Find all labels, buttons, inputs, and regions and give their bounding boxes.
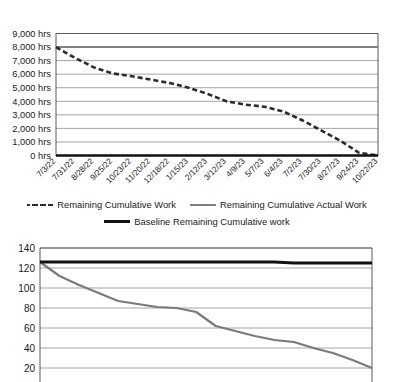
chart-page: 0 hrs1,000 hrs2,000 hrs3,000 hrs4,000 hr… xyxy=(0,0,394,382)
chart-legend: Remaining Cumulative Work Remaining Cumu… xyxy=(0,196,394,240)
chart1-svg: 0 hrs1,000 hrs2,000 hrs3,000 hrs4,000 hr… xyxy=(0,0,394,196)
y-tick-label: 3,000 hrs xyxy=(12,110,51,120)
gray-line-icon xyxy=(190,201,216,209)
black-line-icon xyxy=(104,218,130,226)
y-tick-label: 40 xyxy=(24,343,36,354)
chart2-remaining-actual-work-series xyxy=(40,262,372,368)
y-tick-label: 100 xyxy=(18,283,35,294)
y-tick-label: 60 xyxy=(24,323,36,334)
legend-label: Remaining Cumulative Work xyxy=(57,200,176,209)
dashed-line-icon xyxy=(27,201,53,209)
y-tick-label: 4,000 hrs xyxy=(12,97,51,107)
y-tick-label: 80 xyxy=(24,303,36,314)
chart2-svg: 20406080100120140 xyxy=(0,240,394,382)
remaining-actual-work-chart: 20406080100120140 xyxy=(0,240,394,382)
y-tick-label: 1,000 hrs xyxy=(12,137,51,147)
y-tick-label: 8,000 hrs xyxy=(12,42,51,52)
chart1-gridlines xyxy=(56,34,378,142)
legend-row-1: Remaining Cumulative Work Remaining Cumu… xyxy=(0,196,394,213)
chart2-baseline-series xyxy=(40,262,372,263)
x-tick-label: 5/7/23 xyxy=(243,156,266,179)
y-tick-label: 6,000 hrs xyxy=(12,69,51,79)
chart1-y-axis-labels: 0 hrs1,000 hrs2,000 hrs3,000 hrs4,000 hr… xyxy=(12,29,51,161)
chart1-x-axis-labels: 7/3/227/31/228/28/229/25/2210/23/2211/20… xyxy=(35,156,380,185)
legend-label: Remaining Cumulative Actual Work xyxy=(220,200,367,209)
legend-row-2: Baseline Remaining Cumulative work xyxy=(0,213,394,230)
legend-item-baseline-remaining-cumulative-work[interactable]: Baseline Remaining Cumulative work xyxy=(104,217,289,226)
y-tick-label: 2,000 hrs xyxy=(12,124,51,134)
y-tick-label: 140 xyxy=(18,243,35,254)
legend-label: Baseline Remaining Cumulative work xyxy=(134,217,289,226)
y-tick-label: 5,000 hrs xyxy=(12,83,51,93)
y-tick-label: 7,000 hrs xyxy=(12,56,51,66)
y-tick-label: 9,000 hrs xyxy=(12,29,51,39)
y-tick-label: 20 xyxy=(24,363,36,374)
legend-item-remaining-cumulative-work[interactable]: Remaining Cumulative Work xyxy=(27,200,176,209)
legend-item-remaining-cumulative-actual-work[interactable]: Remaining Cumulative Actual Work xyxy=(190,200,367,209)
remaining-work-hours-chart: 0 hrs1,000 hrs2,000 hrs3,000 hrs4,000 hr… xyxy=(0,0,394,196)
chart1-plot-border xyxy=(56,34,378,156)
x-tick-label: 4/9/23 xyxy=(224,156,247,179)
chart2-y-axis-labels: 20406080100120140 xyxy=(18,243,35,374)
y-tick-label: 120 xyxy=(18,263,35,274)
x-tick-label: 6/4/23 xyxy=(262,156,285,179)
